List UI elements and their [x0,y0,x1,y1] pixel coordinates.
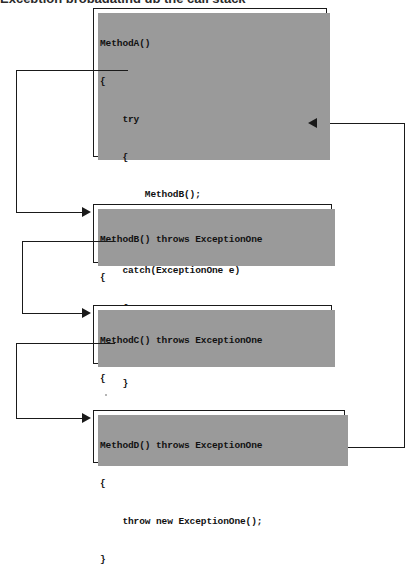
code-line: { [100,76,320,89]
connector-v-a-to-b [16,70,17,213]
figure-caption-clipped: Exception propagating up the call stack [0,0,414,3]
code-line: { [100,272,325,285]
code-line: MethodB(); [100,189,320,202]
connector-h-into-catch [317,123,405,124]
code-box-method-d: MethodD() throws ExceptionOne { throw ne… [93,410,345,463]
code-box-method-c: MethodC() throws ExceptionOne { MethodD(… [93,305,332,364]
code-line: { [100,373,325,386]
arrowhead-into-catch-block [308,118,317,128]
connector-v-throw-up [404,123,405,448]
code-line: throw new ExceptionOne(); [100,516,338,529]
connector-stub-b-call [85,241,115,242]
code-line: } [100,554,338,567]
arrowhead-into-method-b [82,207,91,217]
code-line: MethodA() [100,38,320,51]
code-line: { [100,152,320,165]
connector-h-b-to-c-bottom [22,313,84,314]
code-block-method-d: MethodD() throws ExceptionOne { throw ne… [94,411,344,568]
code-line: try [100,114,320,127]
code-box-method-a: MethodA() { try { MethodB(); } catch(Exc… [93,8,327,157]
code-line: MethodB() throws ExceptionOne [100,234,325,247]
connector-stub-c-call [85,343,115,344]
connector-h-a-to-b-bottom [16,212,84,213]
connector-h-b-to-c-top [22,241,88,242]
arrowhead-into-method-d [82,413,91,423]
code-line: MethodC() throws ExceptionOne [100,335,325,348]
code-box-method-b: MethodB() throws ExceptionOne { MethodC(… [93,204,332,263]
code-line: MethodD() throws ExceptionOne [100,440,338,453]
connector-h-c-to-d-bottom [16,418,84,419]
arrowhead-into-method-c [82,308,91,318]
connector-h-c-to-d-top [16,343,88,344]
connector-v-c-to-d [16,343,17,419]
code-line: { [100,478,338,491]
connector-h-a-to-b-top [16,70,86,71]
connector-stub-a-call [85,70,128,71]
connector-v-b-to-c [22,241,23,314]
